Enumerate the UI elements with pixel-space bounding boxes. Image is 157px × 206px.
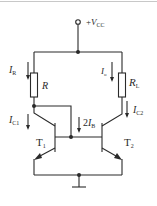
ic1-arrow-icon bbox=[26, 125, 30, 130]
ic2-label: IC2 bbox=[132, 104, 143, 116]
ib-arrow-icon bbox=[77, 128, 81, 133]
resistor-rl-label: RL bbox=[128, 76, 140, 89]
transistor-t2-icon bbox=[102, 112, 122, 175]
ic1-label: IC1 bbox=[8, 114, 19, 126]
t2-label: T2 bbox=[124, 136, 134, 149]
io-arrow-icon bbox=[110, 77, 114, 82]
diode-connection-wire bbox=[34, 106, 71, 137]
ib-label: 2IB bbox=[83, 117, 95, 129]
t1-label: T1 bbox=[36, 136, 46, 149]
io-label: Io bbox=[100, 66, 107, 77]
circuit-diagram: +VCC R IR RL Io IC2 IC1 bbox=[0, 0, 157, 206]
vcc-label: +VCC bbox=[86, 17, 105, 28]
ir-arrow-icon bbox=[26, 75, 30, 80]
top-junction-dot bbox=[76, 50, 80, 54]
resistor-r-label: R bbox=[41, 80, 48, 91]
resistor-rl-icon bbox=[119, 73, 126, 97]
resistor-r-icon bbox=[31, 73, 38, 97]
ic2-arrow-icon bbox=[125, 113, 129, 118]
ir-label: IR bbox=[8, 64, 16, 76]
vcc-terminal-icon bbox=[76, 20, 81, 25]
circuit-schematic: +VCC R IR RL Io IC2 IC1 bbox=[0, 0, 157, 206]
